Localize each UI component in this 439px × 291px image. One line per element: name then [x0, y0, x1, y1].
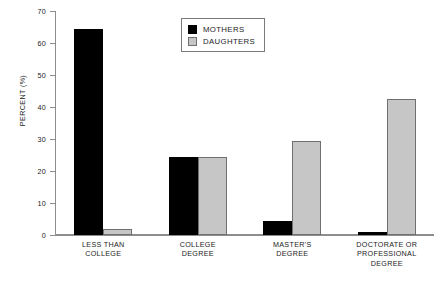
bar-daughters — [292, 141, 321, 235]
x-axis-label-line: COLLEGE — [148, 240, 248, 249]
y-tick-label: 20 — [20, 167, 46, 176]
x-axis-label-line: LESS THAN — [53, 240, 153, 249]
y-tick-mark — [50, 107, 55, 108]
x-axis-label-line: MASTER'S — [242, 240, 342, 249]
bar-mothers — [263, 221, 292, 235]
legend-swatch-mothers-icon — [188, 25, 197, 34]
bar-group — [74, 11, 132, 235]
x-axis-label-line: DEGREE — [337, 259, 437, 268]
x-axis-label: DOCTORATE ORPROFESSIONALDEGREE — [337, 240, 437, 268]
x-axis-label: LESS THANCOLLEGE — [53, 240, 153, 259]
x-axis-label-line: DOCTORATE OR — [337, 240, 437, 249]
x-axis-label: COLLEGEDEGREE — [148, 240, 248, 259]
legend-label-daughters: DAUGHTERS — [203, 37, 255, 46]
bar-daughters — [103, 229, 132, 235]
bar-group — [263, 11, 321, 235]
legend-item-daughters: DAUGHTERS — [188, 35, 255, 47]
y-tick-mark — [50, 11, 55, 12]
y-tick-mark — [50, 75, 55, 76]
y-tick-mark — [50, 171, 55, 172]
legend-item-mothers: MOTHERS — [188, 23, 255, 35]
y-tick-mark — [50, 139, 55, 140]
x-axis-label: MASTER'SDEGREE — [242, 240, 342, 259]
x-axis-label-line: DEGREE — [242, 249, 342, 258]
y-tick-mark — [50, 43, 55, 44]
y-tick-label: 70 — [20, 7, 46, 16]
y-tick-mark — [50, 203, 55, 204]
y-tick-label: 60 — [20, 39, 46, 48]
x-axis-label-line: DEGREE — [148, 249, 248, 258]
bar-group — [358, 11, 416, 235]
y-tick-label: 0 — [20, 231, 46, 240]
bar-daughters — [387, 99, 416, 235]
x-axis-label-line: COLLEGE — [53, 249, 153, 258]
bar-mothers — [358, 232, 387, 235]
bar-mothers — [169, 157, 198, 235]
x-axis-label-line: PROFESSIONAL — [337, 249, 437, 258]
y-tick-label: 50 — [20, 71, 46, 80]
bar-daughters — [198, 157, 227, 235]
bar-mothers — [74, 29, 103, 235]
bar-chart: PERCENT (%) 010203040506070 LESS THANCOL… — [0, 0, 439, 291]
y-tick-label: 40 — [20, 103, 46, 112]
legend-label-mothers: MOTHERS — [203, 25, 244, 34]
y-tick-label: 30 — [20, 135, 46, 144]
y-tick-label: 10 — [20, 199, 46, 208]
legend-swatch-daughters-icon — [188, 37, 197, 46]
legend: MOTHERS DAUGHTERS — [181, 18, 265, 52]
